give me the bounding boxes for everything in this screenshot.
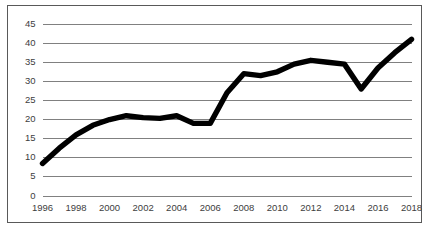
x-tick-label: 2012 <box>300 202 321 213</box>
y-tick-label: 45 <box>25 18 36 29</box>
x-tick-label: 2008 <box>233 202 254 213</box>
y-tick-label: 30 <box>25 75 36 86</box>
y-tick-label: 5 <box>30 170 35 181</box>
x-axis-tick-labels: 1996199820002002200420062008201020122014… <box>32 202 422 213</box>
y-tick-label: 35 <box>25 56 36 67</box>
x-tick-label: 2004 <box>166 202 187 213</box>
y-tick-label: 0 <box>30 190 35 201</box>
chart-figure: 051015202530354045 199619982000200220042… <box>7 5 422 223</box>
x-tick-label: 2002 <box>133 202 154 213</box>
y-tick-label: 10 <box>25 151 36 162</box>
x-tick-label: 2014 <box>334 202 355 213</box>
y-tick-label: 20 <box>25 113 36 124</box>
x-tick-label: 1996 <box>32 202 53 213</box>
x-tick-label: 2016 <box>367 202 388 213</box>
x-tick-label: 2006 <box>200 202 221 213</box>
x-tick-label: 1998 <box>65 202 86 213</box>
y-axis-tick-labels: 051015202530354045 <box>25 18 36 201</box>
y-tick-label: 40 <box>25 37 36 48</box>
x-tick-label: 2018 <box>401 202 422 213</box>
gridlines-group <box>43 24 412 196</box>
x-tick-label: 2000 <box>99 202 120 213</box>
x-tick-label: 2010 <box>267 202 288 213</box>
y-tick-label: 25 <box>25 94 36 105</box>
y-tick-label: 15 <box>25 132 36 143</box>
data-series-line <box>43 39 412 163</box>
line-chart-plot: 051015202530354045 199619982000200220042… <box>8 6 423 224</box>
